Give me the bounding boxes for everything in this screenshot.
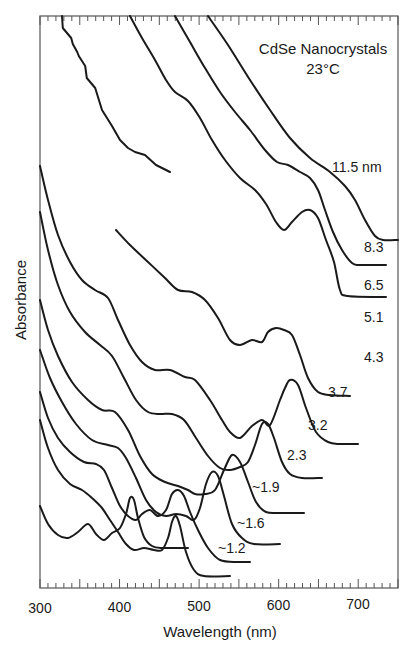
spectrum-curve-3-7-nm — [40, 212, 322, 478]
series-label: ~1.6 — [237, 515, 265, 531]
series-label: 3.7 — [328, 384, 348, 400]
spectrum-curve-4-3-nm — [40, 166, 358, 444]
series-label: 6.5 — [364, 277, 384, 293]
x-tick-label-700: 700 — [346, 596, 370, 612]
series-label: ~1.9 — [252, 479, 280, 495]
absorbance-chart: 11.5 nm8.36.55.14.33.73.22.3~1.9~1.6~1.2… — [0, 0, 408, 645]
series-label: 5.1 — [364, 309, 384, 325]
chart-subtitle: 23°C — [306, 60, 340, 77]
x-tick-label-400: 400 — [108, 599, 132, 615]
series-label: 8.3 — [364, 239, 384, 255]
x-axis-label: Wavelength (nm) — [163, 623, 277, 640]
axis-ticks — [40, 16, 398, 588]
series-label: 2.3 — [287, 447, 307, 463]
spectrum-curve-5-1-nm — [116, 230, 350, 396]
spectrum-curve-6-5-nm — [130, 16, 386, 297]
series-label: 3.2 — [308, 417, 328, 433]
noisy-uv-trace — [62, 16, 170, 172]
series-label: ~1.2 — [218, 540, 246, 556]
series-label: 11.5 nm — [332, 159, 382, 175]
x-tick-label-600: 600 — [267, 597, 291, 613]
y-axis-label: Absorbance — [12, 260, 29, 340]
x-tick-label-500: 500 — [187, 598, 211, 614]
spectrum-curve-1-2-nm — [40, 497, 188, 548]
spectra-curves — [40, 16, 398, 576]
series-label: 4.3 — [364, 349, 384, 365]
plot-frame — [40, 16, 398, 588]
x-tick-label-300: 300 — [28, 600, 52, 616]
chart-title: CdSe Nanocrystals — [259, 40, 387, 57]
